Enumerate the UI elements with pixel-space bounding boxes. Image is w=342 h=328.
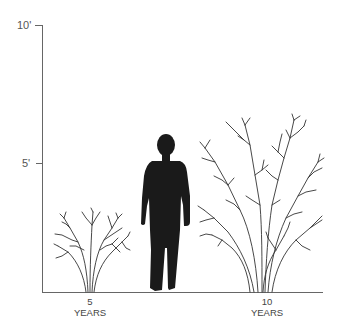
growth-diagram: [0, 0, 342, 328]
x-label-10-number: 10: [237, 296, 297, 307]
x-label-5-years: 5 YEARS: [60, 296, 120, 318]
axes: [35, 25, 323, 293]
person-silhouette-icon: [141, 134, 190, 291]
x-label-10-years: 10 YEARS: [237, 296, 297, 318]
shrub-5-years-icon: [54, 208, 130, 292]
x-label-5-number: 5: [60, 296, 120, 307]
x-label-5-unit: YEARS: [60, 307, 120, 318]
x-label-10-unit: YEARS: [237, 307, 297, 318]
shrub-10-years-icon: [198, 114, 324, 292]
